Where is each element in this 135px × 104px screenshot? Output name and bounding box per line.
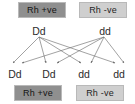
offspring-genotype-4: dd: [106, 68, 132, 80]
offspring-phenotype-label-left: Rh +ve: [23, 88, 53, 98]
offspring-genotype-1: Dd: [2, 68, 28, 80]
offspring-phenotype-box-left: Rh +ve: [14, 85, 62, 101]
parent-phenotype-box-left: Rh +ve: [18, 2, 66, 18]
parent-genotype-right: dd: [92, 25, 118, 37]
offspring-genotype-2: Dd: [36, 68, 62, 80]
offspring-phenotype-box-right: Rh -ve: [76, 85, 124, 101]
parent-phenotype-label-right: Rh -ve: [89, 5, 117, 15]
parent-genotype-left: Dd: [26, 25, 52, 37]
parent-phenotype-box-right: Rh -ve: [79, 2, 127, 18]
parent-phenotype-label-left: Rh +ve: [27, 5, 57, 15]
genetics-cross-diagram: Rh +ve Rh -ve Dd dd Dd Dd dd dd: [0, 0, 135, 104]
offspring-phenotype-label-right: Rh -ve: [86, 88, 114, 98]
offspring-genotype-3: dd: [71, 68, 97, 80]
